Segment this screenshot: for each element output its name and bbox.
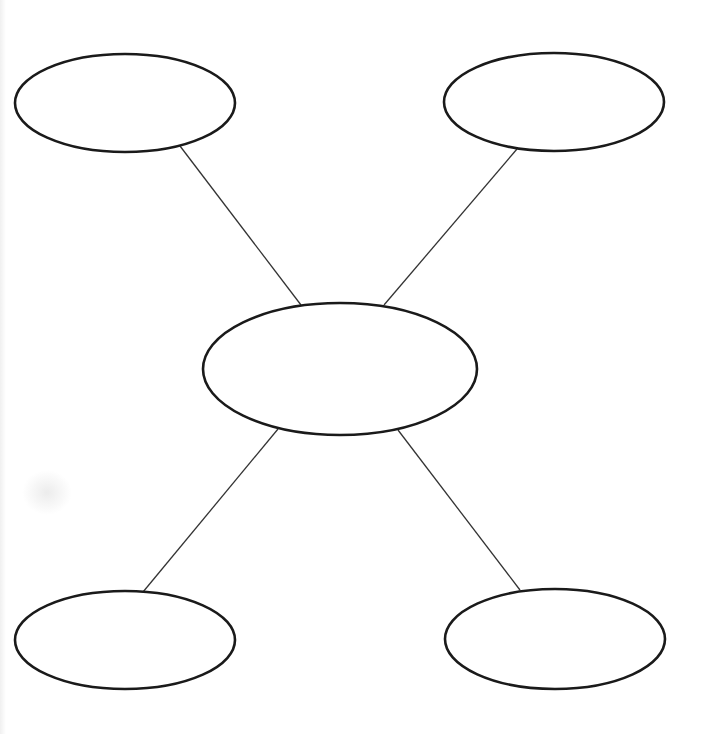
connector-line-center-bottom-right: [398, 430, 520, 590]
connector-line-center-bottom-left: [143, 429, 278, 592]
oval-node-bottom-left: [15, 591, 235, 689]
oval-shape-bottom-left: [15, 591, 235, 689]
oval-shape-center: [203, 303, 477, 435]
oval-shape-bottom-right: [445, 589, 665, 689]
oval-shape-top-right: [444, 53, 664, 151]
oval-node-top-left: [15, 54, 235, 152]
oval-nodes: [15, 53, 665, 689]
oval-node-bottom-right: [445, 589, 665, 689]
connector-line-top-left-center: [180, 146, 301, 305]
oval-node-center: [203, 303, 477, 435]
spider-diagram: [0, 0, 712, 734]
connector-line-top-right-center: [384, 149, 517, 305]
oval-node-top-right: [444, 53, 664, 151]
oval-shape-top-left: [15, 54, 235, 152]
